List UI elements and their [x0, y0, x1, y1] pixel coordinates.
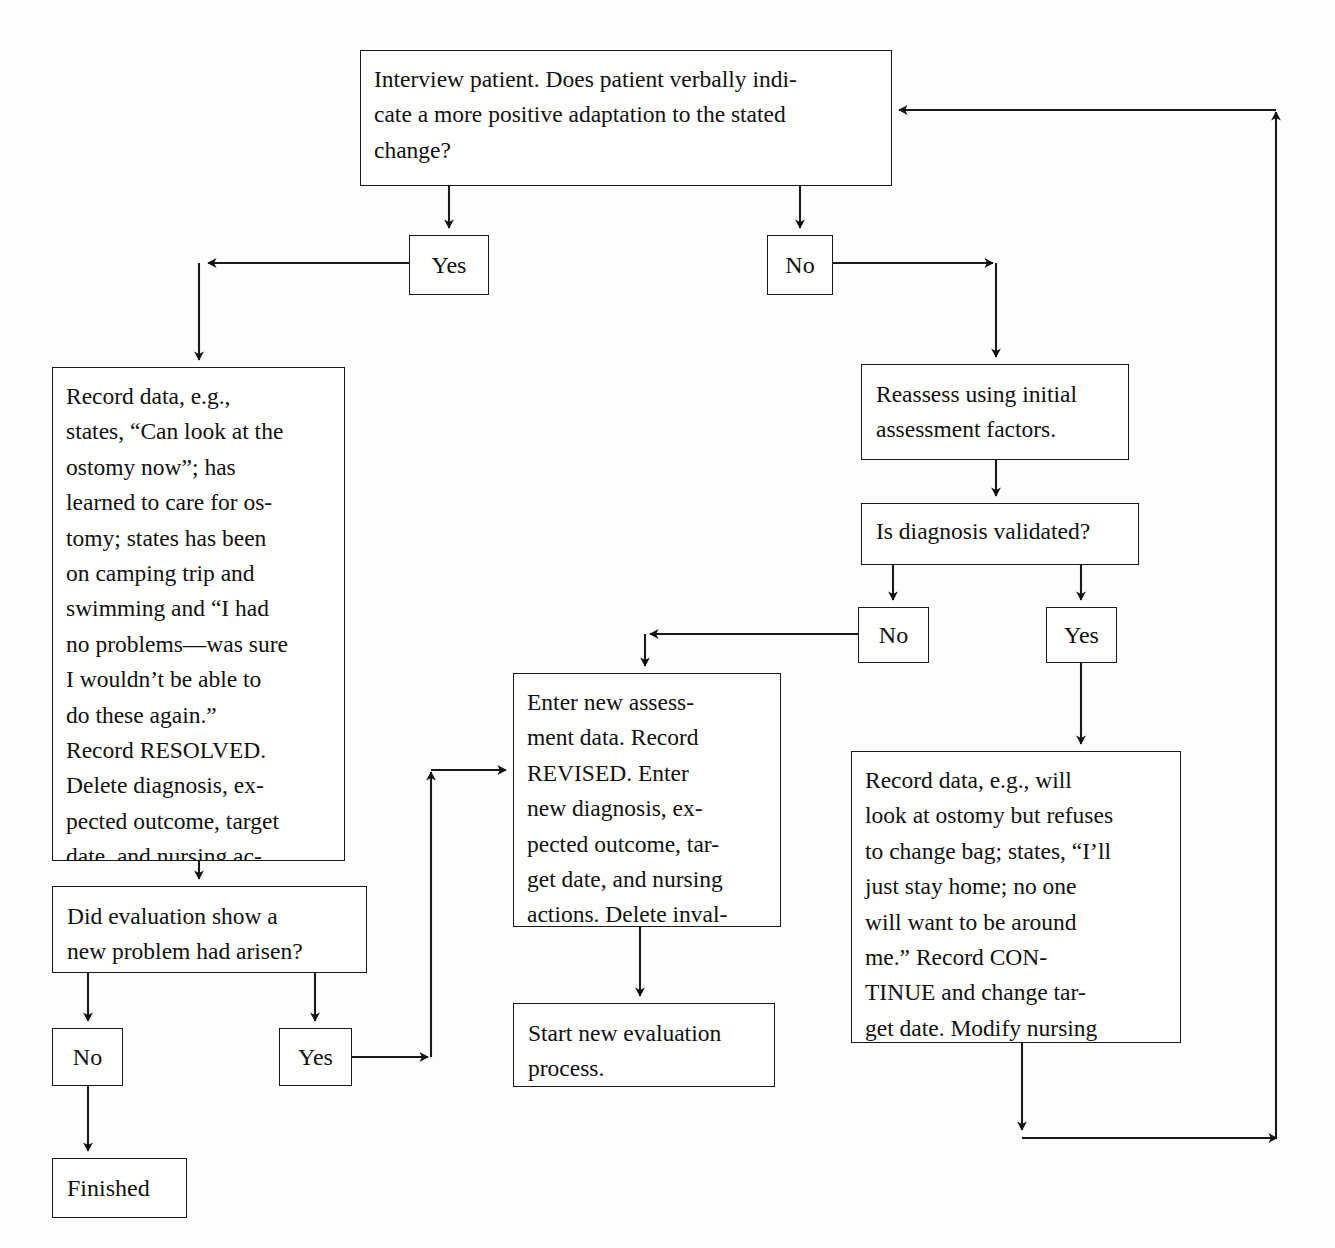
node-did-evaluation-show-new-problem-text: Did evaluation show a new problem had ar… [67, 899, 352, 969]
node-is-diagnosis-validated[interactable]: Is diagnosis validated? [861, 503, 1139, 565]
node-no-top[interactable]: No [767, 235, 833, 295]
node-record-continue[interactable]: Record data, e.g., will look at ostomy b… [851, 751, 1181, 1043]
node-start-new-evaluation-text: Start new evaluation process. [528, 1016, 760, 1086]
node-finished[interactable]: Finished [52, 1158, 187, 1218]
node-yes-validated[interactable]: Yes [1046, 607, 1117, 663]
node-enter-new-assessment-text: Enter new assess- ment data. Record REVI… [527, 685, 767, 927]
node-record-continue-text: Record data, e.g., will look at ostomy b… [865, 763, 1167, 1043]
node-no-validated[interactable]: No [858, 607, 929, 663]
node-reassess-text: Reassess using initial assessment factor… [876, 377, 1114, 447]
node-yes-bottom[interactable]: Yes [279, 1028, 352, 1086]
node-did-evaluation-show-new-problem[interactable]: Did evaluation show a new problem had ar… [52, 886, 367, 973]
node-yes-top-text: Yes [432, 253, 467, 277]
node-yes-validated-text: Yes [1064, 623, 1099, 647]
node-start-new-evaluation[interactable]: Start new evaluation process. [513, 1003, 775, 1087]
node-yes-bottom-text: Yes [298, 1045, 333, 1069]
node-no-bottom-text: No [73, 1045, 102, 1069]
node-enter-new-assessment[interactable]: Enter new assess- ment data. Record REVI… [513, 673, 781, 927]
node-no-validated-text: No [879, 623, 908, 647]
node-interview-patient-text: Interview patient. Does patient verbally… [374, 62, 878, 168]
node-record-resolved[interactable]: Record data, e.g., states, “Can look at … [52, 367, 345, 861]
node-interview-patient[interactable]: Interview patient. Does patient verbally… [360, 50, 892, 186]
node-finished-text: Finished [67, 1176, 150, 1200]
node-no-bottom[interactable]: No [52, 1028, 123, 1086]
node-record-resolved-text: Record data, e.g., states, “Can look at … [66, 379, 331, 861]
flowchart-page: Interview patient. Does patient verbally… [0, 0, 1335, 1248]
node-is-diagnosis-validated-text: Is diagnosis validated? [876, 514, 1124, 549]
node-reassess[interactable]: Reassess using initial assessment factor… [861, 364, 1129, 460]
node-no-top-text: No [785, 253, 814, 277]
node-yes-top[interactable]: Yes [409, 235, 489, 295]
